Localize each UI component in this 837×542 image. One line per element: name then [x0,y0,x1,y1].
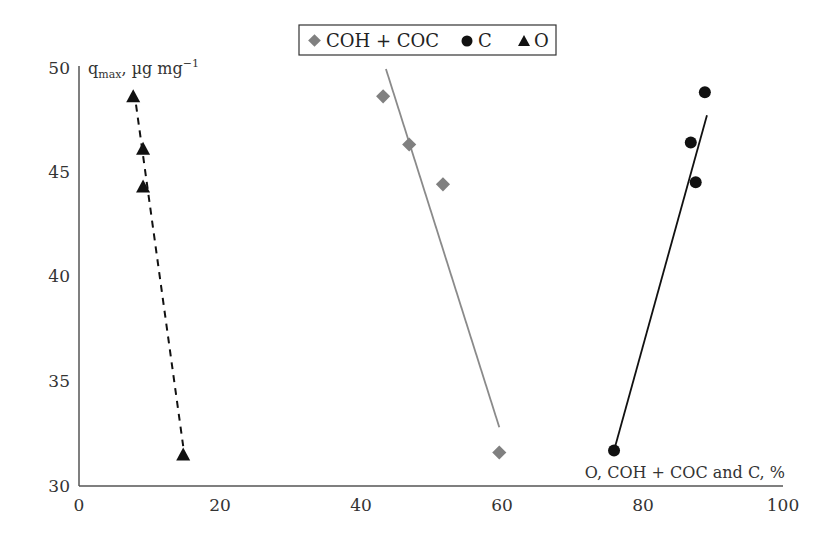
y-tick-50: 50 [48,58,70,78]
x-tick-40: 40 [350,495,372,515]
triangle-marker-icon [126,89,140,102]
y-tick-labels: 30 35 40 45 50 [48,58,70,496]
diamond-marker-icon [492,445,506,459]
x-tick-60: 60 [491,495,513,515]
y-tick-35: 35 [48,371,70,391]
legend-item-coh-coc: COH + COC [308,30,439,51]
x-axis-label: O, COH + COC and C, % [585,463,785,482]
x-tick-100: 100 [767,495,799,515]
circle-marker-icon [608,444,620,456]
trendline [386,69,499,427]
svg-text:COH + COC: COH + COC [326,30,439,51]
y-tick-30: 30 [48,476,70,496]
x-tick-20: 20 [209,495,231,515]
circle-marker-icon [462,36,473,47]
trendline [136,105,183,446]
y-axis-label: qmax, µg mg−1 [88,57,199,81]
scatter-chart: 30 35 40 45 50 0 20 40 60 80 100 qmax, µ… [0,0,837,542]
svg-text:O: O [534,30,549,51]
diamond-marker-icon [436,177,450,191]
circle-marker-icon [690,176,702,188]
diamond-marker-icon [402,137,416,151]
circle-marker-icon [685,136,697,148]
triangle-marker-icon [176,448,190,461]
y-tick-40: 40 [48,266,70,286]
triangle-marker-icon [136,142,150,155]
circle-marker-icon [699,86,711,98]
svg-text:C: C [478,30,492,51]
x-tick-80: 80 [632,495,654,515]
x-tick-0: 0 [74,495,85,515]
x-tick-labels: 0 20 40 60 80 100 [74,495,800,515]
y-tick-45: 45 [48,162,70,182]
plot-area [126,69,711,460]
trendline [614,115,707,450]
legend: COH + COC C O [299,25,556,55]
diamond-marker-icon [376,89,390,103]
